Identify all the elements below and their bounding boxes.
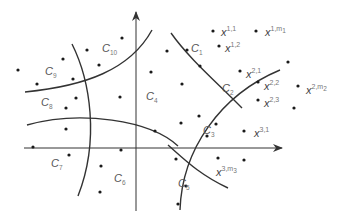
data-point [217, 44, 220, 47]
cluster-labels: C1C2C3C4C5C6C7C8C9C10 [41, 42, 234, 191]
data-point [198, 64, 201, 67]
data-point [242, 129, 245, 132]
cluster-label: C2 [222, 82, 234, 96]
data-point [286, 60, 289, 63]
data-point [35, 82, 38, 85]
data-point [149, 70, 152, 73]
data-point [165, 49, 168, 52]
point-label: x2,2 [263, 79, 279, 92]
data-point [214, 122, 217, 125]
data-point [238, 69, 241, 72]
data-point [118, 95, 121, 98]
data-point [97, 63, 100, 66]
data-point [153, 129, 156, 132]
data-point [85, 48, 88, 51]
cluster-label: C9 [45, 65, 57, 79]
data-point [176, 202, 179, 205]
cluster-label: C4 [146, 90, 158, 104]
data-point [180, 82, 183, 85]
cluster-label: C5 [178, 177, 190, 191]
cluster-label: C6 [114, 172, 126, 186]
data-point [119, 148, 122, 151]
data-point [179, 121, 182, 124]
coordinate-axes [24, 12, 282, 211]
point-label: x2,1 [245, 67, 261, 80]
point-label: x3,1 [253, 126, 269, 139]
data-point [197, 114, 200, 117]
data-point [211, 29, 214, 32]
data-point [254, 29, 257, 32]
data-point [296, 84, 299, 87]
cluster-label: C3 [203, 124, 215, 138]
data-point [292, 106, 295, 109]
data-point [256, 98, 259, 101]
point-label: x2,m2 [305, 83, 327, 96]
data-point [61, 57, 64, 60]
cluster-label: C8 [41, 96, 53, 110]
data-point [64, 127, 67, 130]
cluster-diagram: C1C2C3C4C5C6C7C8C9C10 x1,1x1,m1x1,2x2,1x… [0, 0, 338, 220]
data-point [98, 190, 101, 193]
data-point [71, 77, 74, 80]
data-point [74, 96, 77, 99]
data-point [31, 145, 34, 148]
cluster-boundaries [25, 30, 280, 210]
boundary-c8-c9-left [72, 44, 91, 196]
data-point [99, 164, 102, 167]
data-point [16, 68, 19, 71]
point-label: x2,3 [263, 96, 279, 109]
data-point [174, 157, 177, 160]
cluster-label: C1 [191, 42, 203, 56]
boundary-c9-c10 [25, 30, 152, 92]
data-point [216, 156, 219, 159]
data-point [256, 80, 259, 83]
cluster-label: C10 [102, 42, 118, 56]
point-label: x1,2 [224, 41, 240, 54]
data-point [242, 158, 245, 161]
data-point [185, 48, 188, 51]
data-point [64, 106, 67, 109]
point-label: x3,m3 [215, 165, 237, 178]
point-labels: x1,1x1,m1x1,2x2,1x2,2x2,3x2,m2x3,1x3,m3 [215, 25, 327, 178]
data-point [120, 36, 123, 39]
data-point [67, 153, 70, 156]
point-label: x1,1 [220, 25, 236, 38]
cluster-label: C7 [51, 157, 63, 171]
point-label: x1,m1 [264, 25, 286, 38]
data-points [16, 29, 299, 205]
